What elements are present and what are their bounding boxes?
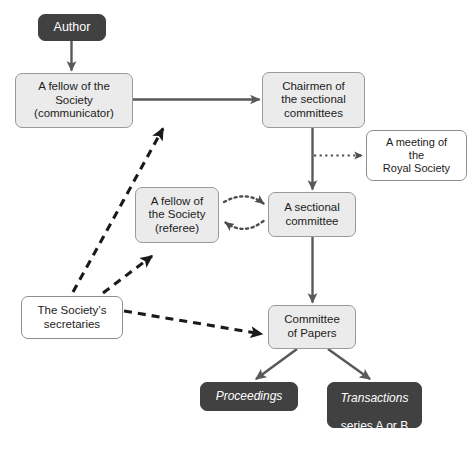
- edge-secretaries-to-referee: [103, 256, 152, 293]
- flowchart-diagram: Author A fellow of the Society (communic…: [0, 0, 473, 449]
- edge-committee-of-papers-to-transactions: [328, 349, 370, 379]
- node-chairmen-of-the-sectional-committees[interactable]: Chairmen of the sectional committees: [262, 72, 365, 128]
- edge-sectional-committee-to-referee: [226, 221, 264, 229]
- transactions-series: series A or B: [341, 419, 408, 433]
- edge-committee-of-papers-to-proceedings: [256, 349, 297, 379]
- edge-secretaries-to-committee-of-papers: [124, 311, 262, 334]
- node-a-fellow-of-the-society-communicator[interactable]: A fellow of the Society (communicator): [15, 73, 133, 128]
- transactions-title: Transactions: [341, 391, 409, 405]
- node-a-meeting-of-the-royal-society[interactable]: A meeting of the Royal Society: [366, 130, 467, 181]
- node-a-fellow-of-the-society-referee[interactable]: A fellow of the Society (referee): [135, 187, 219, 243]
- node-transactions-series-a-or-b[interactable]: Transactions series A or B: [327, 382, 422, 428]
- node-proceedings[interactable]: Proceedings: [200, 382, 298, 411]
- edge-referee-to-sectional-committee: [224, 196, 264, 203]
- node-committee-of-papers[interactable]: Committee of Papers: [268, 305, 356, 349]
- node-the-societys-secretaries[interactable]: The Society’s secretaries: [21, 296, 123, 339]
- node-a-sectional-committee[interactable]: A sectional committee: [268, 192, 356, 237]
- node-author[interactable]: Author: [38, 14, 106, 41]
